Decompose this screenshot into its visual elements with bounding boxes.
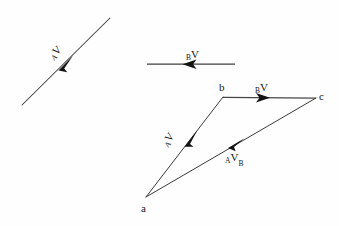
label-b-velocity-standalone: BV — [186, 49, 199, 60]
vertex-label-b: b — [219, 82, 225, 93]
vector-triangle-side-bc — [223, 93, 316, 103]
label-bc-velocity-symbol: V — [260, 81, 268, 93]
vertex-label-c: c — [319, 91, 324, 102]
vector-ab-shaft — [146, 97, 223, 197]
vector-triangle-side-ac — [146, 98, 316, 197]
label-b-velocity-symbol: V — [191, 48, 199, 60]
vector-triangle-side-ab — [146, 97, 223, 197]
vector-a-velocity-shaft — [22, 18, 110, 105]
vertex-label-a: a — [141, 203, 146, 214]
vector-diagram-figure: AV BV BV AV AVB a b c — [0, 0, 339, 226]
label-relative-velocity-subscript: B — [238, 159, 243, 168]
label-b-velocity-presubscript: B — [186, 53, 191, 62]
vector-a-velocity-standalone — [22, 18, 110, 105]
vector-a-velocity-arrowhead — [59, 56, 74, 72]
label-bc-velocity: BV — [255, 82, 268, 93]
label-relative-velocity-presubscript: A — [225, 156, 230, 165]
vector-b-velocity-standalone — [147, 59, 235, 69]
vector-ac-arrowhead — [228, 138, 245, 151]
label-relative-velocity: AVB — [225, 152, 243, 166]
label-bc-velocity-presubscript: B — [255, 86, 260, 95]
vector-diagram-canvas — [0, 0, 339, 226]
